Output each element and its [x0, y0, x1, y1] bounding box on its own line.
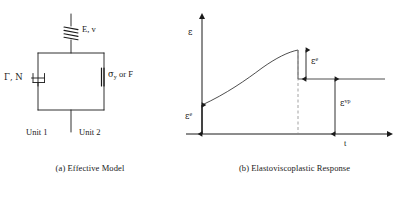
spring-icon	[64, 27, 78, 40]
viscoplastic-strain-label: εvp	[340, 99, 350, 108]
yield-element-icon	[102, 68, 105, 86]
sigma-subscript: y	[114, 74, 117, 80]
response-chart-drawing	[180, 0, 409, 160]
sigma-symbol: σ	[108, 69, 114, 79]
panel-a-caption: (a) Effective Model	[0, 163, 180, 173]
elastic-recovery-label: εe	[311, 57, 318, 66]
y-axis-label: ε	[188, 28, 192, 37]
friction-label: Γ, N	[4, 73, 23, 82]
panel-effective-model: E, v Γ, N σy or F Unit 1 Unit 2 (a) Effe…	[0, 0, 180, 197]
figure-container: E, v Γ, N σy or F Unit 1 Unit 2 (a) Effe…	[0, 0, 409, 197]
yield-or-force: or F	[117, 69, 133, 79]
x-axis-label: t	[344, 139, 346, 148]
initial-elastic-strain-label: εe	[185, 112, 192, 121]
yield-stress-label: σy or F	[108, 70, 133, 79]
unit-1-label: Unit 1	[26, 128, 48, 137]
panel-elastoviscoplastic-response: ε t εe εe εvp (b) Elastoviscoplastic Res…	[180, 0, 409, 197]
panel-b-caption: (b) Elastoviscoplastic Response	[180, 163, 409, 173]
unit-2-label: Unit 2	[79, 128, 101, 137]
strain-curve	[202, 50, 385, 134]
spring-label: E, v	[82, 25, 96, 34]
